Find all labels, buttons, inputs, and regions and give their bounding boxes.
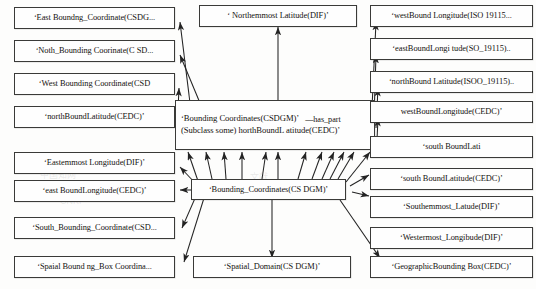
- node-left-4[interactable]: ‘Eastemmost Longitude(DIF)’: [14, 152, 175, 174]
- node-bottom-center-spatial-domain[interactable]: ‘Spatial_Domain(CS DGM)’: [193, 256, 351, 278]
- center-node-line1: ‘Bounding Coordinates(CSDGM)’: [181, 113, 299, 125]
- diagram-canvas: 中国知网 CNKI 文献 ‘East Boundng_Coordinate(CS…: [0, 0, 536, 289]
- node-label: ‘West Bounding Coordinate(CSD: [37, 79, 152, 89]
- node-right-5[interactable]: ‘south BoundLatitude(CEDC)’: [370, 168, 533, 190]
- relation-label-has-part: —has_part: [305, 114, 340, 125]
- node-label: westBoundLongitude(CEDC)’: [399, 107, 505, 117]
- node-label: ‘South_Bounding_Coordinate(CSD...: [30, 223, 159, 233]
- node-right-1[interactable]: ‘eastBoundLongi tude(SO_19115)..: [370, 38, 533, 60]
- node-right-7[interactable]: ‘Westermost_Longibude(DIF)’: [370, 227, 533, 249]
- node-label: ‘south BoundLatitude(CEDC)’: [398, 174, 505, 184]
- node-label: ‘northBoundLatitude(CEDC)’: [42, 112, 146, 122]
- node-label: ‘eastBoundLongi tude(SO_19115)..: [390, 44, 512, 54]
- node-right-0[interactable]: ‘westBound Longitude(ISO 19115...: [370, 5, 533, 27]
- node-left-6[interactable]: ‘South_Bounding_Coordinate(CSD...: [14, 217, 175, 239]
- node-right-3[interactable]: westBoundLongitude(CEDC)’: [370, 101, 533, 123]
- node-right-8[interactable]: ‘GeographicBounding Box(CEDC)’: [370, 256, 533, 278]
- node-label: ‘northBound Latitude(ISOO_19115)..: [387, 77, 516, 87]
- node-left-5[interactable]: ‘east BoundLongitude(CEDC)’: [14, 180, 175, 202]
- node-label: ‘Westermost_Longibude(DIF)’: [398, 233, 505, 243]
- node-center-bounding-coordinates-csdgm[interactable]: ‘Bounding Coordinates(CSDGM)’ —has_part …: [175, 100, 375, 150]
- node-label: ‘Eastemmost Longitude(DIF)’: [42, 158, 147, 168]
- center-node-line2: (Subclass some) horthBoundL atitude(CEDC…: [181, 125, 369, 137]
- node-label: ‘Southemmost_Latude(DIF)’: [401, 202, 502, 212]
- node-left-7[interactable]: ‘Spaial Bound ng_Box Coordina...: [14, 256, 175, 278]
- node-right-6[interactable]: ‘Southemmost_Latude(DIF)’: [370, 196, 533, 218]
- node-hub-bounding-coordinates-csdgm[interactable]: ‘Bounding_Coordinates(CS DGM)’: [191, 179, 346, 200]
- node-label: ‘ Northemmost Latitude(DIF)’: [225, 11, 330, 21]
- node-left-1[interactable]: ‘Noth_Bounding Coorinate(C SD...: [14, 40, 175, 62]
- center-node-line1-row: ‘Bounding Coordinates(CSDGM)’ —has_part: [181, 113, 369, 125]
- node-label: ‘east BoundLongitude(CEDC)’: [40, 186, 148, 196]
- node-label: ‘westBound Longitude(ISO 19115...: [389, 11, 514, 21]
- node-label: ‘Noth_Bounding Coorinate(C SD...: [34, 46, 156, 56]
- node-label: ‘GeographicBounding Box(CEDC)’: [389, 262, 513, 272]
- node-right-2[interactable]: ‘northBound Latitude(ISOO_19115)..: [370, 71, 533, 93]
- node-label: ‘Spaial Bound ng_Box Coordina...: [35, 262, 154, 272]
- node-label: ‘south BoundLati: [420, 142, 482, 152]
- node-label: ‘Spatial_Domain(CS DGM)’: [222, 262, 322, 272]
- node-left-3[interactable]: ‘northBoundLatitude(CEDC)’: [14, 106, 175, 128]
- node-top-center[interactable]: ‘ Northemmost Latitude(DIF)’: [199, 5, 357, 27]
- node-label: ‘East Boundng_Coordinate(CSDG...: [32, 13, 157, 23]
- node-right-4[interactable]: ‘south BoundLati: [370, 136, 533, 158]
- node-left-0[interactable]: ‘East Boundng_Coordinate(CSDG...: [14, 7, 175, 29]
- node-left-2[interactable]: ‘West Bounding Coordinate(CSD: [14, 73, 175, 95]
- node-label: ‘Bounding_Coordinates(CS DGM)’: [207, 185, 330, 195]
